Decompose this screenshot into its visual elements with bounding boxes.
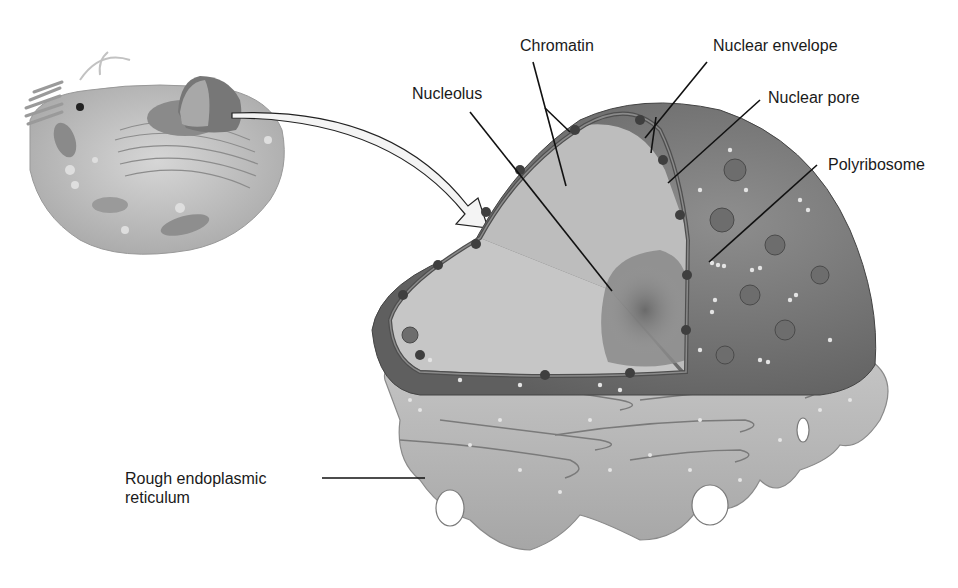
cell-inset-illustration — [26, 52, 284, 254]
label-chromatin: Chromatin — [520, 36, 594, 55]
label-nuclear-pore: Nuclear pore — [768, 88, 860, 107]
label-nuclear-envelope: Nuclear envelope — [713, 36, 838, 55]
nucleus-illustration — [372, 103, 876, 395]
label-rough-er-line1: Rough endoplasmic — [125, 469, 266, 488]
label-polyribosome: Polyribosome — [828, 155, 925, 174]
label-nucleolus: Nucleolus — [412, 84, 482, 103]
label-rough-er-line2: reticulum — [125, 488, 190, 507]
